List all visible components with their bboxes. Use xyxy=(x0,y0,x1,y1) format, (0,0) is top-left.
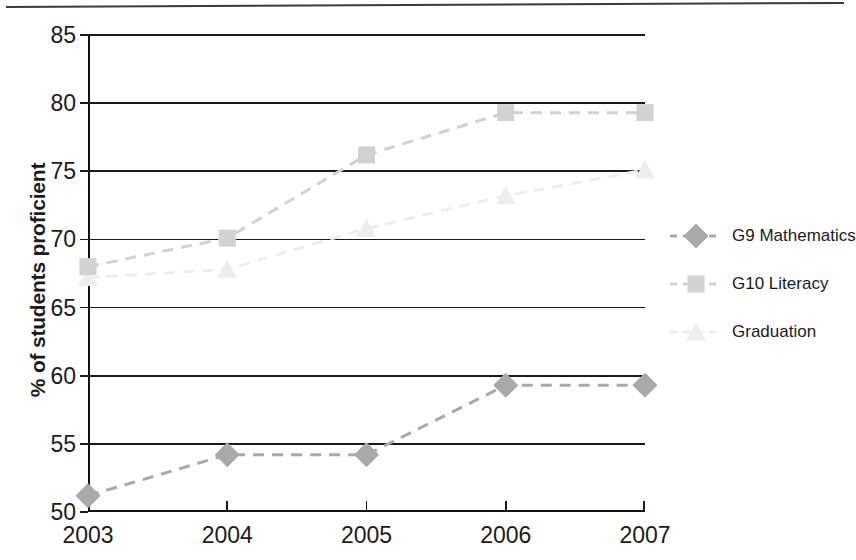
data-point-marker xyxy=(359,147,375,163)
y-axis-tick-label: 55 xyxy=(50,430,76,457)
y-axis-tick-label: 65 xyxy=(50,294,76,321)
y-axis-tick xyxy=(80,102,88,104)
diamond-marker-icon xyxy=(668,223,724,249)
y-axis-tick-label: 75 xyxy=(50,158,76,185)
data-point-marker xyxy=(497,187,515,204)
data-point-marker xyxy=(494,373,518,397)
data-point-marker xyxy=(498,105,514,121)
data-point-marker xyxy=(80,259,96,275)
data-point-marker xyxy=(355,443,379,467)
legend-item-graduation[interactable]: Graduation xyxy=(668,308,848,356)
x-axis-tick-label: 2006 xyxy=(480,522,531,549)
series-g9-mathematics xyxy=(76,373,657,507)
y-axis-tick xyxy=(80,170,88,172)
y-axis-tick-label: 85 xyxy=(50,22,76,49)
x-axis-tick-label: 2004 xyxy=(202,522,253,549)
y-axis-tick xyxy=(80,34,88,36)
x-axis-tick-label: 2005 xyxy=(341,522,392,549)
legend-item-g9-mathematics[interactable]: G9 Mathematics xyxy=(668,212,848,260)
y-axis-tick xyxy=(80,375,88,377)
series-graduation xyxy=(79,161,654,286)
series-g10-literacy xyxy=(80,105,653,275)
series-line xyxy=(88,385,645,495)
x-axis-tick-label: 2007 xyxy=(619,522,670,549)
legend-label: G9 Mathematics xyxy=(724,226,856,246)
legend-item-g10-literacy[interactable]: G10 Literacy xyxy=(668,260,848,308)
data-point-marker xyxy=(633,373,657,397)
chart-legend: G9 MathematicsG10 LiteracyGraduation xyxy=(668,212,848,356)
page-divider-rule xyxy=(6,2,844,8)
y-axis-tick xyxy=(80,307,88,309)
x-axis-tick-label: 2003 xyxy=(62,522,113,549)
y-axis-title: % of students proficient xyxy=(26,130,50,430)
legend-label: G10 Literacy xyxy=(724,274,828,294)
data-point-marker xyxy=(637,105,653,121)
triangle-marker-icon xyxy=(668,319,724,345)
y-axis-tick-label: 80 xyxy=(50,90,76,117)
legend-label: Graduation xyxy=(724,322,816,342)
data-point-marker xyxy=(636,161,654,178)
series-line xyxy=(88,113,645,267)
data-point-marker xyxy=(215,443,239,467)
y-axis-tick-label: 60 xyxy=(50,362,76,389)
square-marker-icon xyxy=(668,271,724,297)
data-point-marker xyxy=(76,484,100,508)
y-axis-tick-label: 70 xyxy=(50,226,76,253)
y-axis-tick xyxy=(80,511,88,513)
y-axis-tick xyxy=(80,443,88,445)
data-point-marker xyxy=(219,230,235,246)
y-axis-tick xyxy=(80,239,88,241)
plot-area: 5055606570758085 20032004200520062007 xyxy=(88,35,645,512)
series-layer xyxy=(88,35,645,512)
